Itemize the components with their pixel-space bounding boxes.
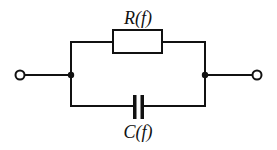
left-junction-dot (68, 72, 74, 78)
capacitor-symbol (133, 95, 144, 119)
capacitor-plate-right (141, 95, 145, 119)
left-terminal-icon (16, 71, 25, 80)
capacitor-label: C(f) (124, 123, 153, 141)
capacitor-plate-left (133, 95, 137, 119)
resistor-symbol (113, 30, 162, 53)
right-terminal-icon (253, 71, 262, 80)
resistor-label: R(f) (124, 9, 152, 27)
right-junction-dot (202, 72, 208, 78)
